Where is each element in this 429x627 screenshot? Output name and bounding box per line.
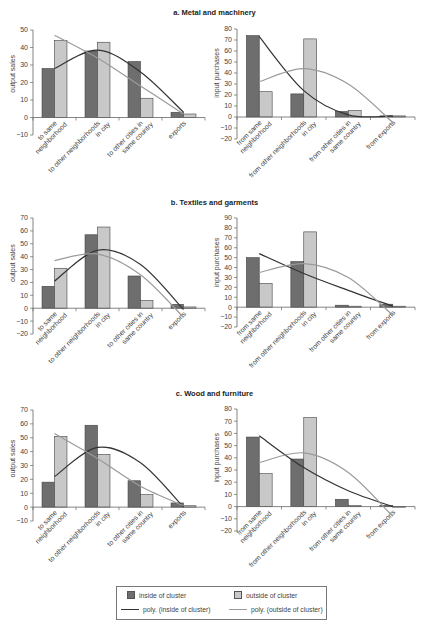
bar-inside-of-cluster (42, 69, 54, 118)
category-label: to other cities insame country (106, 504, 156, 554)
y-tick-label: 60 (224, 244, 232, 251)
chart-a-output: −1001020304050output salesto sameneighbo… (9, 26, 205, 180)
bar-outside-of-cluster (259, 92, 272, 117)
y-tick-label: −20 (220, 135, 232, 142)
legend-item-inside-poly: poly. (inside of cluster) (121, 606, 211, 613)
category-label: to other cities insame country (106, 305, 156, 355)
bar-inside-of-cluster (246, 36, 259, 117)
y-tick-label: 70 (224, 36, 232, 43)
category-label: to sameneighborhood (28, 306, 69, 347)
category-label: from other cities insame country (308, 114, 363, 169)
y-tick-label: −10 (16, 517, 28, 524)
category-label: from exports (365, 118, 398, 151)
y-axis-title: output sales (9, 244, 17, 282)
y-tick-label: −20 (220, 527, 232, 534)
trendline-outside-of-cluster (55, 35, 184, 114)
y-tick-label: 50 (224, 442, 232, 449)
chart-canvas: −1001020304050output salesto sameneighbo… (0, 0, 429, 627)
y-tick-label: 40 (20, 253, 28, 260)
category-label: exports (166, 310, 188, 332)
y-tick-label: 80 (224, 224, 232, 231)
y-tick-label: 30 (224, 80, 232, 87)
y-tick-label: 50 (20, 26, 28, 33)
bar-outside-of-cluster (55, 41, 67, 118)
y-tick-label: 10 (20, 490, 28, 497)
trendline-inside-of-cluster (259, 37, 393, 117)
y-tick-label: 50 (224, 254, 232, 261)
y-tick-label: 70 (20, 406, 28, 413)
legend-item-inside-bar: inside of cluster (127, 591, 186, 599)
y-tick-label: 40 (20, 448, 28, 455)
y-tick-label: 0 (228, 113, 232, 120)
bar-outside-of-cluster (259, 474, 272, 507)
category-label: from exports (365, 508, 398, 541)
y-axis-title: output sales (9, 439, 17, 477)
y-tick-label: 30 (20, 266, 28, 273)
chart-c-output: −10010203040506070output salesto samenei… (9, 406, 205, 569)
y-tick-label: 80 (224, 405, 232, 412)
bar-inside-of-cluster (42, 286, 54, 308)
y-tick-label: 40 (224, 454, 232, 461)
y-tick-label: 0 (228, 503, 232, 510)
y-tick-label: 80 (224, 25, 232, 32)
y-tick-label: 40 (224, 69, 232, 76)
y-tick-label: 50 (20, 240, 28, 247)
y-axis-title: input purchases (213, 237, 221, 287)
legend-item-outside-poly: poly. (outside of cluster) (229, 606, 323, 613)
y-tick-label: 50 (224, 58, 232, 65)
bar-inside-of-cluster (42, 482, 54, 507)
bar-outside-of-cluster (141, 495, 153, 507)
chart-b-input: −20−100102030405060708090input purchases… (213, 214, 415, 375)
category-label: exports (166, 508, 188, 530)
y-tick-label: −20 (220, 323, 232, 330)
bar-inside-of-cluster (85, 235, 97, 308)
y-tick-label: 0 (24, 504, 28, 511)
y-tick-label: 0 (24, 114, 28, 121)
bar-outside-of-cluster (184, 114, 196, 118)
bar-inside-of-cluster (128, 276, 140, 308)
y-tick-label: 20 (224, 91, 232, 98)
bar-outside-of-cluster (98, 227, 110, 308)
trendline-outside-of-cluster (259, 69, 393, 123)
y-tick-label: 0 (24, 305, 28, 312)
y-tick-label: 10 (224, 491, 232, 498)
legend-label: poly. (inside of cluster) (143, 606, 211, 613)
category-label: from sameneighborhood (233, 305, 274, 346)
bar-outside-of-cluster (304, 418, 317, 507)
bar-inside-of-cluster (246, 437, 259, 507)
category-label: from sameneighborhood (233, 504, 274, 545)
bar-outside-of-cluster (141, 300, 153, 308)
y-tick-label: −10 (220, 313, 232, 320)
chart-c-input: −20−1001020304050607080input purchasesfr… (213, 405, 415, 574)
bar-inside-of-cluster (85, 51, 97, 118)
bar-inside-of-cluster (128, 62, 140, 118)
y-tick-label: 10 (20, 292, 28, 299)
y-tick-label: 30 (20, 61, 28, 68)
bar-inside-of-cluster (335, 499, 348, 506)
trendline-outside-of-cluster (55, 254, 184, 318)
bar-inside-of-cluster (291, 94, 304, 117)
inside-poly-line-icon (121, 609, 139, 610)
y-tick-label: 60 (20, 420, 28, 427)
bar-inside-of-cluster (246, 258, 259, 308)
legend-item-outside-bar: outside of cluster (234, 591, 297, 599)
bar-outside-of-cluster (259, 283, 272, 307)
y-axis-title: input purchases (213, 433, 221, 483)
bar-outside-of-cluster (55, 268, 67, 308)
bar-inside-of-cluster (85, 425, 97, 507)
bar-outside-of-cluster (304, 39, 317, 117)
y-axis-title: output sales (9, 54, 17, 92)
category-label: from other cities insame country (308, 304, 363, 359)
y-tick-label: −10 (220, 124, 232, 131)
category-label: from sameneighborhood (233, 114, 274, 155)
outside-poly-line-icon (229, 609, 247, 610)
category-label: exports (166, 119, 188, 141)
y-tick-label: 20 (224, 284, 232, 291)
y-tick-label: −10 (16, 318, 28, 325)
bar-outside-of-cluster (304, 232, 317, 307)
legend-label: poly. (outside of cluster) (251, 606, 323, 613)
y-tick-label: 30 (224, 466, 232, 473)
y-tick-label: 60 (224, 47, 232, 54)
y-tick-label: 60 (20, 227, 28, 234)
legend-label: outside of cluster (246, 592, 297, 599)
